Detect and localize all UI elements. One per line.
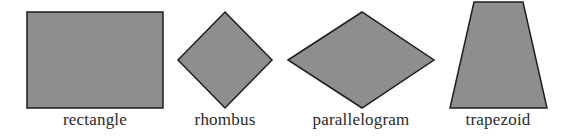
parallelogram-shape: [288, 12, 434, 108]
rectangle-shape: [27, 12, 163, 108]
rhombus-label: rhombus: [195, 110, 256, 130]
parallelogram-label: parallelogram: [313, 110, 410, 130]
trapezoid-shape: [450, 2, 547, 108]
rectangle-label: rectangle: [63, 110, 127, 130]
rhombus-shape: [178, 12, 272, 108]
trapezoid-label: trapezoid: [465, 110, 530, 130]
